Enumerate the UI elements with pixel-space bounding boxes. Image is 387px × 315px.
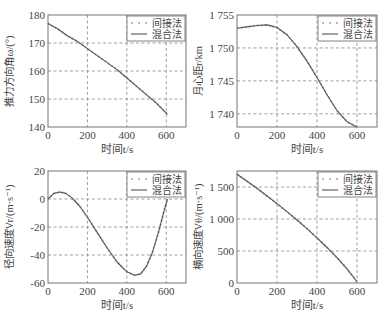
x-axis-label: 时间t/s <box>101 299 133 311</box>
x-tick-labels: 0200400600 <box>45 285 175 297</box>
x-tick-labels: 0200400600 <box>234 129 366 141</box>
x-axis-label: 时间t/s <box>291 143 323 155</box>
chart-panel-transverse-velocity: 020040060005001 0001 500时间t/s横向速度Vθ/(m·s… <box>192 157 385 314</box>
legend: 间接法混合法 <box>127 172 185 197</box>
svg-text:1 500: 1 500 <box>209 181 234 193</box>
y-axis-label: 径向速度Vr/(m·s⁻¹) <box>3 184 16 269</box>
svg-text:600: 600 <box>349 285 366 297</box>
legend-label-indirect: 间接法 <box>152 173 182 185</box>
svg-text:200: 200 <box>269 129 286 141</box>
legend-label-hybrid: 混合法 <box>152 184 182 196</box>
legend: 间接法混合法 <box>318 172 376 197</box>
svg-text:0: 0 <box>40 193 46 205</box>
series-indirect-method <box>48 192 167 275</box>
svg-text:0: 0 <box>45 285 51 297</box>
x-axis-label: 时间t/s <box>291 299 323 311</box>
y-axis-label: 月心距r/km <box>193 46 204 96</box>
chart-radius: 02004006001 7401 7451 7501 755时间t/s月心距r/… <box>192 0 387 157</box>
legend-label-hybrid: 混合法 <box>343 184 373 196</box>
svg-text:-40: -40 <box>30 249 45 261</box>
legend-label-hybrid: 混合法 <box>152 28 182 40</box>
x-axis-label: 时间t/s <box>101 143 133 155</box>
svg-text:0: 0 <box>45 129 51 141</box>
legend: 间接法混合法 <box>127 16 185 41</box>
svg-text:500: 500 <box>218 245 235 257</box>
y-axis-label: 推力方向角ω/(°) <box>3 35 16 107</box>
svg-text:600: 600 <box>349 129 366 141</box>
legend-label-indirect: 间接法 <box>152 17 182 29</box>
y-tick-labels: 140150160170180 <box>29 9 46 133</box>
svg-text:-20: -20 <box>30 221 45 233</box>
svg-text:600: 600 <box>158 129 175 141</box>
x-tick-labels: 0200400600 <box>45 129 175 141</box>
svg-text:400: 400 <box>119 285 136 297</box>
y-tick-labels: 1 7401 7451 7501 755 <box>209 9 234 120</box>
chart-thrust-angle: 0200400600140150160170180时间t/s推力方向角ω/(°)… <box>0 0 193 157</box>
svg-text:180: 180 <box>29 9 46 21</box>
svg-text:200: 200 <box>269 285 286 297</box>
y-tick-labels: 05001 0001 500 <box>209 181 234 289</box>
svg-text:160: 160 <box>29 65 46 77</box>
chart-panel-radial-velocity: 0200400600-60-40-20020时间t/s径向速度Vr/(m·s⁻¹… <box>0 157 193 314</box>
svg-text:150: 150 <box>29 93 46 105</box>
svg-text:1 750: 1 750 <box>209 42 234 54</box>
series-hybrid-method <box>48 192 167 275</box>
svg-text:20: 20 <box>34 165 46 177</box>
svg-text:400: 400 <box>309 285 326 297</box>
chart-radial-velocity: 0200400600-60-40-20020时间t/s径向速度Vr/(m·s⁻¹… <box>0 157 193 315</box>
chart-panel-radius: 02004006001 7401 7451 7501 755时间t/s月心距r/… <box>192 0 385 157</box>
svg-text:400: 400 <box>119 129 136 141</box>
svg-text:0: 0 <box>234 285 240 297</box>
svg-text:0: 0 <box>234 129 240 141</box>
y-tick-labels: -60-40-20020 <box>30 165 45 289</box>
svg-text:-60: -60 <box>30 277 45 289</box>
svg-text:1 000: 1 000 <box>209 213 234 225</box>
svg-text:200: 200 <box>79 285 96 297</box>
legend-label-indirect: 间接法 <box>343 17 373 29</box>
legend-label-hybrid: 混合法 <box>343 28 373 40</box>
chart-transverse-velocity: 020040060005001 0001 500时间t/s横向速度Vθ/(m·s… <box>192 157 387 315</box>
svg-text:200: 200 <box>79 129 96 141</box>
svg-text:0: 0 <box>229 277 235 289</box>
legend: 间接法混合法 <box>318 16 376 41</box>
legend-label-indirect: 间接法 <box>343 173 373 185</box>
svg-text:170: 170 <box>29 37 46 49</box>
svg-text:1 755: 1 755 <box>209 9 234 21</box>
svg-text:140: 140 <box>29 121 46 133</box>
y-axis-label: 横向速度Vθ/(m·s⁻¹) <box>192 183 205 270</box>
svg-text:1 740: 1 740 <box>209 108 234 120</box>
svg-text:400: 400 <box>309 129 326 141</box>
svg-text:1 745: 1 745 <box>209 75 234 87</box>
x-tick-labels: 0200400600 <box>234 285 366 297</box>
svg-text:600: 600 <box>158 285 175 297</box>
chart-panel-thrust-angle: 0200400600140150160170180时间t/s推力方向角ω/(°)… <box>0 0 193 157</box>
